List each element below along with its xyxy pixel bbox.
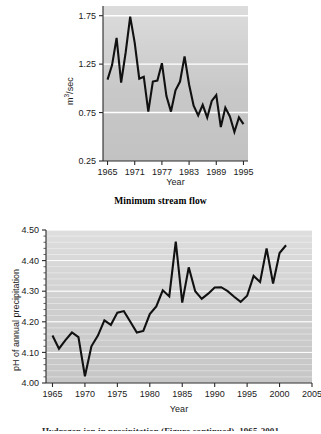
y-axis-tick-label: 4.00: [21, 378, 39, 388]
ph-precipitation-plot: 4.004.104.204.304.404.50 196519701975198…: [0, 214, 321, 404]
y-axis: 0.250.751.251.75: [78, 6, 103, 166]
y-axis-tick-label: 0.25: [78, 156, 96, 166]
x-axis-tick-label: 1980: [140, 389, 160, 399]
x-axis-tick-label: 1995: [237, 389, 257, 399]
x-axis-tick-label: 1975: [107, 389, 127, 399]
y-axis-title-text: m3/sec: [65, 77, 75, 105]
x-axis-title: Year: [103, 177, 248, 187]
ph-precipitation-panel: 4.004.104.204.304.404.50 196519701975198…: [0, 214, 321, 434]
y-axis: 4.004.104.204.304.404.50: [21, 225, 46, 388]
two-panel-line-chart-figure: 0.250.751.251.75 19651971197719831989199…: [0, 0, 321, 434]
x-axis-tick-label: 1970: [75, 389, 95, 399]
x-axis-tick-label: 1985: [172, 389, 192, 399]
x-axis-tick-label: 1977: [152, 167, 172, 175]
x-axis-tick-label: 1965: [98, 167, 118, 175]
x-axis-tick-label: 1990: [205, 389, 225, 399]
y-axis-tick-label: 4.20: [21, 317, 39, 327]
x-axis-tick-label: 1965: [42, 389, 62, 399]
y-axis-tick-label: 4.30: [21, 286, 39, 296]
y-axis-title: pH of annual precipitation: [11, 269, 21, 371]
y-axis-tick-label: 0.75: [78, 108, 96, 118]
y-axis-tick-label: 4.10: [21, 348, 39, 358]
panel-caption-stream-flow: Minimum stream flow: [0, 196, 321, 206]
y-axis-tick-label: 4.50: [21, 225, 39, 235]
plot-background: [46, 230, 312, 383]
figure-caption-truncated: Hydrogen ion in precipitation (Figure co…: [0, 426, 321, 431]
x-axis-tick-label: 2005: [302, 389, 321, 399]
y-axis-tick-label: 4.40: [21, 256, 39, 266]
x-axis-tick-label: 1983: [179, 167, 199, 175]
x-axis-tick-label: 1989: [206, 167, 226, 175]
stream-flow-panel: 0.250.751.251.75 19651971197719831989199…: [0, 0, 321, 214]
plot-background: [103, 6, 248, 161]
y-axis-tick-label: 1.75: [78, 11, 96, 21]
x-axis-tick-label: 2000: [270, 389, 290, 399]
x-axis-tick-label: 1971: [125, 167, 145, 175]
x-axis-title: Year: [46, 404, 312, 414]
x-axis: 196519701975198019851990199520002005: [42, 383, 321, 399]
stream-flow-plot: 0.250.751.251.75 19651971197719831989199…: [0, 0, 321, 175]
x-axis-tick-label: 1995: [233, 167, 253, 175]
y-axis-title: m3/sec: [63, 77, 75, 105]
x-axis: 196519711977198319891995: [98, 161, 254, 175]
y-axis-tick-label: 1.25: [78, 59, 96, 69]
